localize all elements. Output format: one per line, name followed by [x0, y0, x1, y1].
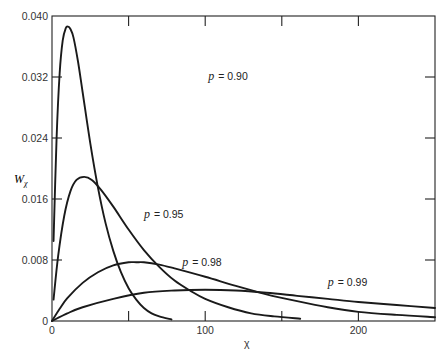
- y-tick-label: 0.032: [22, 71, 48, 83]
- axes: [52, 16, 435, 321]
- curve-label: p= 0.95: [143, 207, 184, 221]
- y-tick-label: 0.016: [22, 193, 48, 205]
- y-tick-label: 0.008: [22, 254, 48, 266]
- x-tick-label: 0: [49, 324, 55, 336]
- x-tick-label: 200: [350, 324, 368, 336]
- x-axis-title: χ: [244, 337, 250, 349]
- curve-label: p= 0.99: [327, 275, 368, 289]
- curve-099: [52, 290, 435, 321]
- ticks: 010020000.0080.0160.0240.0320.040: [22, 10, 435, 336]
- y-axis-title: Wχ: [14, 172, 28, 188]
- curve-label: p= 0.98: [181, 255, 222, 269]
- chart-canvas: 010020000.0080.0160.0240.0320.040 p= 0.9…: [0, 0, 446, 357]
- curve-090: [54, 26, 172, 319]
- y-tick-label: 0.024: [22, 132, 48, 144]
- curve-label: p= 0.90: [207, 69, 248, 83]
- y-tick-label: 0: [42, 315, 48, 327]
- curve-labels: p= 0.90p= 0.95p= 0.98p= 0.99: [143, 69, 367, 289]
- y-tick-label: 0.040: [22, 10, 48, 22]
- x-tick-label: 100: [196, 324, 214, 336]
- curve-095: [54, 177, 301, 319]
- plot-frame: [52, 16, 435, 321]
